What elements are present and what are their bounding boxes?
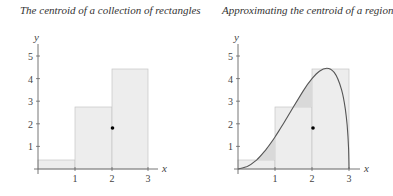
left-centroid-point [111,126,115,130]
right-rect-3 [312,69,349,169]
right-y-tick-5: 5 [228,51,233,62]
right-y-tick-3: 3 [228,96,233,107]
right-y-tick-4: 4 [228,74,233,85]
left-rect-2 [75,107,112,169]
left-chart: 1 2 3 4 5 1 2 3 x y [28,31,167,184]
left-y-axis-label: y [33,31,39,43]
right-x-tick-1: 1 [273,173,278,184]
left-rect-3 [112,69,148,169]
left-y-tick-3: 3 [28,96,33,107]
left-rect-1 [38,160,75,169]
right-chart: 1 2 3 4 5 1 2 3 x y [228,31,369,184]
right-x-tick-3: 3 [347,173,352,184]
left-y-tick-2: 2 [28,119,33,130]
left-x-tick-1: 1 [73,173,78,184]
left-y-tick-1: 1 [28,141,33,152]
right-rect-2 [275,107,312,169]
right-y-axis-label: y [233,31,239,43]
right-y-tick-1: 1 [228,141,233,152]
left-y-tick-4: 4 [28,74,33,85]
right-y-tick-2: 2 [228,119,233,130]
left-y-tick-5: 5 [28,51,33,62]
right-centroid-point [311,126,315,130]
left-x-tick-2: 2 [110,173,115,184]
left-x-tick-3: 3 [146,173,151,184]
left-x-axis-label: x [161,162,167,174]
right-x-axis-label: x [363,162,369,174]
right-x-tick-2: 2 [310,173,315,184]
